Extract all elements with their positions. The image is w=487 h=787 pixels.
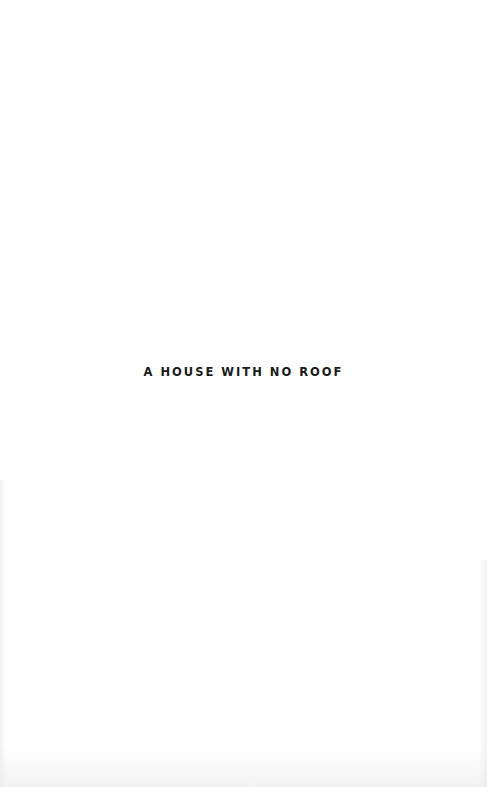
scan-edge-left (0, 480, 6, 787)
scan-edge-right (479, 560, 487, 787)
book-page: A HOUSE WITH NO ROOF (0, 0, 487, 787)
scan-edge-bottom (0, 747, 487, 787)
book-title: A HOUSE WITH NO ROOF (0, 364, 487, 380)
